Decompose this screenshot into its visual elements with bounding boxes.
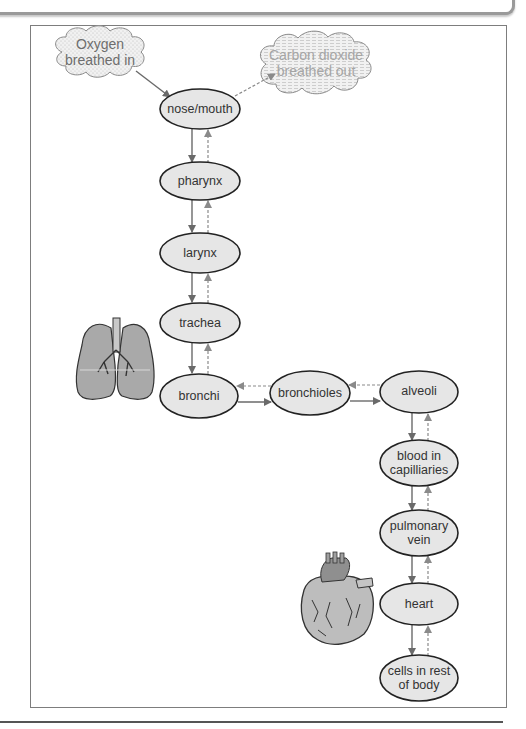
node-pulmonary-vein-shape (380, 510, 458, 556)
cloud-co2-out (260, 31, 371, 94)
lungs-icon (76, 318, 154, 399)
cloud-oxygen-in (56, 26, 144, 78)
node-cells-body-shape (380, 655, 458, 701)
node-nose-mouth-shape (160, 89, 240, 129)
node-pharynx-shape (160, 162, 240, 200)
edges (136, 71, 428, 656)
node-heart-shape (380, 583, 458, 625)
node-larynx-shape (160, 233, 240, 273)
node-bronchi-shape (160, 374, 238, 418)
node-alveoli-shape (380, 371, 458, 413)
node-trachea-shape (160, 303, 240, 343)
heart-organ-icon (301, 552, 373, 644)
respiration-flow-diagram (0, 0, 526, 729)
node-blood-capillaries-shape (380, 440, 458, 486)
node-bronchioles-shape (270, 371, 350, 415)
